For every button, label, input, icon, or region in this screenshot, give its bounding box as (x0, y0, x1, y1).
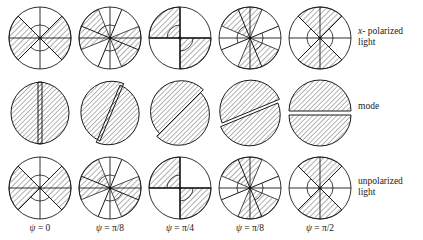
diagram-cell (219, 7, 281, 69)
column-label-psi-pi-2: ψ = π/2 (306, 223, 334, 233)
column-label-psi-pi-8-b: ψ = π/8 (236, 223, 264, 233)
column-label-psi-0: ψ = 0 (30, 223, 51, 233)
mode-half (289, 115, 351, 146)
diagram-cell (81, 81, 139, 145)
column-label-psi-pi-4: ψ = π/4 (166, 223, 194, 233)
diagram-cell (149, 7, 211, 69)
row-label-x-polarized-light-line2: light (358, 37, 376, 47)
row-label-unpolarized-light: unpolarized (358, 176, 403, 186)
row-label-unpolarized-light-line2: light (358, 187, 376, 197)
diagram-cell (79, 157, 141, 219)
mode-half (38, 82, 69, 144)
hatched-sector (221, 7, 262, 38)
center-dot (178, 36, 181, 39)
center-dot (248, 186, 251, 189)
center-dot (108, 36, 111, 39)
center-dot (38, 36, 41, 39)
row-label-x-polarized-light: x- polarized (357, 26, 403, 36)
hatched-sector (79, 9, 110, 49)
column-labels-group: ψ = 0ψ = π/8ψ = π/4ψ = π/8ψ = π/2 (30, 223, 335, 233)
mode-half (289, 80, 351, 111)
row-label-mode: mode (358, 101, 379, 111)
mode-half (11, 82, 42, 144)
diagram-cell (289, 80, 351, 146)
row-labels-group: x- polarizedlightmodeunpolarizedlight (357, 26, 403, 197)
center-dot (38, 186, 41, 189)
diagram-cell (11, 82, 69, 144)
diagram-cell (9, 157, 71, 219)
diagram-cell (79, 7, 141, 69)
hatched-sector (110, 26, 141, 66)
diagram-cell (219, 157, 281, 219)
diagram-cell (149, 157, 211, 219)
center-dot (318, 36, 321, 39)
diagram-cell (289, 157, 351, 219)
column-label-psi-pi-8: ψ = π/8 (96, 223, 124, 233)
diagram-cell (289, 7, 351, 69)
hatched-sector (221, 157, 262, 188)
center-dot (178, 186, 181, 189)
diagram-cell (9, 7, 71, 69)
polarization-mode-figure: x- polarizedlightmodeunpolarizedlight ψ … (0, 0, 423, 240)
diagram-cell (151, 81, 210, 146)
hatched-sector (79, 159, 110, 199)
center-dot (318, 186, 321, 189)
center-dot (108, 186, 111, 189)
hatched-sector (110, 176, 141, 216)
center-dot (248, 36, 251, 39)
diagram-cell (220, 80, 280, 146)
hatched-sector (238, 188, 279, 219)
diagram-cells (9, 7, 351, 219)
hatched-sector (238, 38, 279, 69)
